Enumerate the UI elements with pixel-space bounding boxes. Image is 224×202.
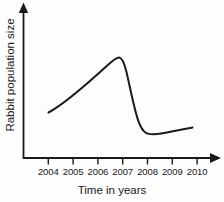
x-axis-arrow-right-icon [210, 153, 221, 163]
chart-figure: 2004 2005 2006 2007 2008 2009 2010 Time … [0, 0, 224, 202]
y-axis-label-container: Rabbit population size [4, 0, 22, 150]
x-tick-label: 2008 [137, 166, 158, 177]
x-axis-label: Time in years [0, 184, 224, 196]
x-tick-label: 2005 [63, 166, 84, 177]
y-axis-label: Rabbit population size [4, 0, 16, 150]
series-line-rabbit-population [49, 57, 193, 134]
x-axis-ticks [48, 158, 197, 165]
x-tick-label: 2006 [88, 166, 109, 177]
x-tick-label: 2004 [38, 166, 59, 177]
x-tick-label: 2007 [112, 166, 133, 177]
x-tick-label: 2009 [162, 166, 183, 177]
x-tick-label: 2010 [187, 166, 208, 177]
